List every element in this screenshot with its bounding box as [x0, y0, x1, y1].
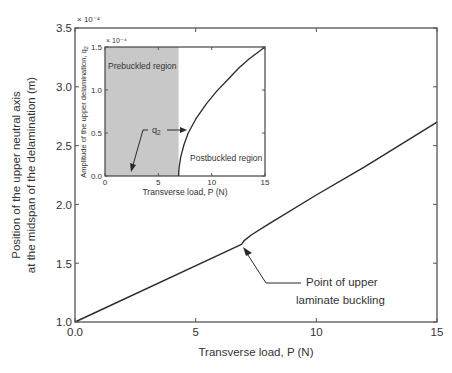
inset-y-axis-label-text: Amplitude of the upper delamination, q	[79, 49, 88, 177]
postbuckled-region-label: Postbuckled region	[190, 153, 263, 163]
y-tick-label: 3.0	[56, 81, 72, 93]
inset-x-axis-label: Transverse load, P (N)	[142, 187, 227, 197]
inset-y-axis-label-sub: 2	[83, 46, 89, 49]
chart-canvas: 0.051015 1.01.52.02.53.03.5 × 10⁻⁴ Trans…	[0, 0, 452, 373]
main-x-axis-label: Transverse load, P (N)	[198, 346, 313, 358]
svg-text:Amplitude of the upper delamin: Amplitude of the upper delamination, q2	[79, 46, 89, 177]
y-tick-label: 1.0	[56, 316, 72, 328]
main-y-multiplier: × 10⁻⁴	[77, 15, 101, 24]
inset-chart: 051015 0.00.51.01.5 × 10⁻⁴ Prebuckled re…	[79, 37, 270, 197]
x-tick-label: 0	[103, 178, 108, 187]
x-tick-label: 5	[156, 178, 161, 187]
annotation-leader-line	[246, 252, 301, 283]
y-tick-label: 0.5	[91, 129, 103, 138]
y-tick-label: 2.5	[56, 140, 72, 152]
y-tick-label: 1.5	[56, 258, 72, 270]
inset-y-axis-label: Amplitude of the upper delamination, q2	[79, 46, 89, 177]
inset-y-multiplier: × 10⁻⁴	[106, 37, 127, 44]
annotation-text-line2: laminate buckling	[296, 294, 385, 306]
y-tick-label: 2.0	[56, 199, 72, 211]
annotation-arrowhead-icon	[243, 247, 252, 256]
y-tick-label: 1.5	[91, 43, 103, 52]
x-tick-label: 5	[192, 326, 198, 338]
y-tick-label: 0.0	[91, 172, 103, 181]
main-y-axis-label-line2: at the midspan of the delamination (m)	[25, 77, 37, 273]
buckling-point-annotation: Point of upper laminate buckling	[243, 247, 385, 306]
x-tick-label: 10	[207, 178, 216, 187]
annotation-text-line1: Point of upper	[306, 276, 378, 288]
y-tick-label: 1.0	[91, 86, 103, 95]
y-tick-label: 3.5	[56, 22, 72, 34]
x-tick-label: 15	[431, 326, 444, 338]
x-tick-label: 10	[310, 326, 323, 338]
q2-label-sub: 2	[157, 129, 161, 136]
prebuckled-region-label: Prebuckled region	[108, 61, 177, 71]
main-y-axis-label-line1: Position of the upper neutral axis	[10, 91, 22, 259]
main-y-axis-label: Position of the upper neutral axis at th…	[10, 77, 37, 273]
x-tick-label: 15	[261, 178, 270, 187]
